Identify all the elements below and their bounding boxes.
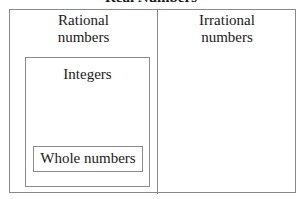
integers-label: Integers <box>25 66 150 83</box>
rational-numbers-label: Rational numbers <box>10 12 157 46</box>
irrational-label-line2: numbers <box>158 29 296 46</box>
whole-numbers-label: Whole numbers <box>33 150 143 167</box>
rational-label-line2: numbers <box>10 29 157 46</box>
rational-label-line1: Rational <box>10 12 157 29</box>
irrational-label-line1: Irrational <box>158 12 296 29</box>
irrational-numbers-label: Irrational numbers <box>158 12 296 46</box>
diagram-title: Real Numbers <box>0 0 302 6</box>
